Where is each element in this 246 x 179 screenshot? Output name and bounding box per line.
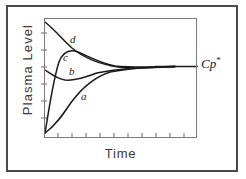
figure-container: Plasma Level Time d c b a Cp* bbox=[0, 0, 246, 179]
steady-state-label-base: Cp bbox=[201, 56, 216, 71]
y-axis-label: Plasma Level bbox=[20, 0, 35, 140]
curve-label-b: b bbox=[69, 66, 75, 77]
curve-label-c: c bbox=[63, 52, 68, 63]
steady-state-label-superscript: * bbox=[216, 55, 221, 65]
steady-state-label: Cp* bbox=[201, 56, 221, 70]
plot-frame bbox=[44, 18, 197, 138]
x-axis-label: Time bbox=[44, 146, 197, 161]
curve-label-a: a bbox=[81, 91, 87, 102]
curve-label-d: d bbox=[70, 34, 76, 45]
